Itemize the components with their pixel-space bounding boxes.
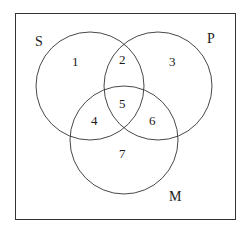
region-7: 7 bbox=[119, 146, 126, 161]
region-3: 3 bbox=[169, 54, 176, 69]
region-6: 6 bbox=[149, 113, 156, 128]
set-label-m: M bbox=[169, 189, 182, 204]
region-4: 4 bbox=[91, 113, 98, 128]
region-5: 5 bbox=[119, 96, 126, 111]
set-label-s: S bbox=[35, 34, 43, 49]
region-2: 2 bbox=[119, 52, 126, 67]
region-1: 1 bbox=[72, 54, 79, 69]
venn-diagram: S P M 1 2 3 4 5 6 7 bbox=[0, 0, 248, 232]
set-label-p: P bbox=[207, 31, 215, 46]
